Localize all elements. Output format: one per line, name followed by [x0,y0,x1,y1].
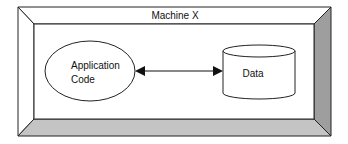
node-label: Data [242,68,264,79]
node-label-line2: Code [71,74,95,85]
cylinder-top [223,45,295,57]
bevel-right [314,7,331,136]
bevel-left [18,7,34,136]
diagram-canvas: Machine X Application Code Data [0,0,348,144]
container-label: Machine X [151,10,199,21]
node-label-line1: Application [71,60,120,71]
bevel-bottom [18,119,331,136]
ellipse-shape [45,41,135,101]
node-data-store: Data [223,45,295,99]
node-application-code: Application Code [45,41,135,101]
